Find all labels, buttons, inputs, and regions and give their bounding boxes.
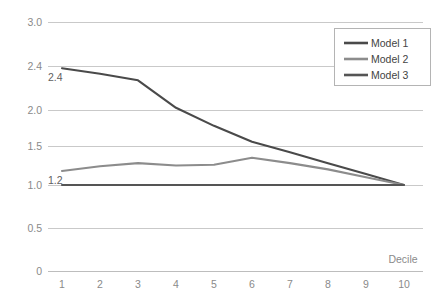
x-tick-label-6: 6 — [249, 278, 255, 290]
y-tick-label-0.5: 0.5 — [27, 222, 42, 234]
legend-label-model-1[interactable]: Model 1 — [371, 37, 409, 49]
y-tick-label-2.4: 2.4 — [27, 60, 42, 72]
x-tick-label-2: 2 — [97, 278, 103, 290]
data-label-2.4: 2.4 — [48, 71, 63, 83]
y-tick-label-1.5: 1.5 — [27, 140, 42, 152]
x-tick-label-4: 4 — [173, 278, 179, 290]
x-tick-label-7: 7 — [287, 278, 293, 290]
x-tick-label-10: 10 — [398, 278, 410, 290]
legend-label-model-3[interactable]: Model 3 — [371, 69, 409, 81]
y-tick-label-0: 0 — [36, 265, 42, 277]
x-tick-label-1: 1 — [59, 278, 65, 290]
x-axis-title: Decile — [388, 253, 417, 265]
x-tick-label-8: 8 — [325, 278, 331, 290]
y-tick-label-3.0: 3.0 — [27, 16, 42, 28]
data-point-labels: 2.41.2 — [48, 71, 63, 186]
x-tick-label-5: 5 — [211, 278, 217, 290]
x-axis-tick-labels: 12345678910 — [59, 278, 410, 290]
y-axis-tick-labels: 3.02.42.01.51.00.50 — [27, 16, 42, 277]
line-chart: 3.02.42.01.51.00.50 12345678910 2.41.2 D… — [0, 0, 444, 308]
chart-canvas: 3.02.42.01.51.00.50 12345678910 2.41.2 D… — [0, 0, 444, 308]
chart-legend[interactable]: Model 1Model 2Model 3 — [335, 29, 431, 86]
y-tick-label-1.0: 1.0 — [27, 179, 42, 191]
x-tick-label-9: 9 — [363, 278, 369, 290]
y-tick-label-2.0: 2.0 — [27, 104, 42, 116]
x-tick-label-3: 3 — [135, 278, 141, 290]
legend-label-model-2[interactable]: Model 2 — [371, 53, 409, 65]
data-label-1.2: 1.2 — [48, 174, 63, 186]
